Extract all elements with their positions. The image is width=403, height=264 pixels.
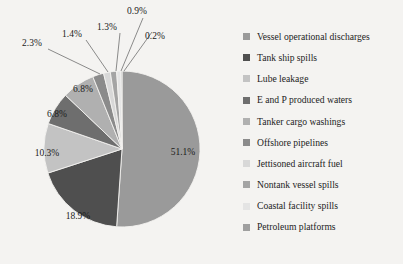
leader-line (116, 33, 120, 71)
legend-item[interactable]: Vessel operational discharges (243, 26, 401, 47)
leader-line (121, 18, 143, 71)
slice-percent-label: 6.8% (73, 84, 93, 94)
legend-item-label: Coastal facility spills (257, 201, 338, 211)
slice-percent-label: 6.8% (47, 109, 67, 119)
legend-item[interactable]: Tanker cargo washings (243, 111, 401, 132)
legend-swatch-icon (243, 54, 250, 61)
slice-percent-label: 10.3% (35, 148, 60, 158)
legend-item-label: Jettisoned aircraft fuel (257, 159, 343, 169)
slice-percent-label: 51.1% (171, 147, 196, 157)
legend-item[interactable]: E and P produced waters (243, 90, 401, 111)
chart-canvas: 51.1%18.9%10.3%6.8%6.8% 2.3%1.4%1.3%0.9%… (0, 0, 403, 264)
callout-value-labels: 2.3%1.4%1.3%0.9%0.2% (22, 6, 165, 48)
legend-item-label: Nontank vessel spills (257, 180, 339, 190)
callout-percent-label: 0.9% (127, 6, 147, 16)
legend-item-label: Offshore pipelines (257, 138, 328, 148)
legend-item[interactable]: Petroleum platforms (243, 217, 401, 238)
callout-percent-label: 1.3% (97, 22, 117, 32)
legend-swatch-icon (243, 224, 250, 231)
legend-swatch-icon (243, 160, 250, 167)
legend-item[interactable]: Jettisoned aircraft fuel (243, 153, 401, 174)
callout-percent-label: 0.2% (145, 31, 165, 41)
legend-swatch-icon (243, 203, 250, 210)
legend-item[interactable]: Offshore pipelines (243, 132, 401, 153)
legend-item[interactable]: Lube leakage (243, 68, 401, 89)
legend-item-label: Tanker cargo washings (257, 117, 345, 127)
legend-swatch-icon (243, 139, 250, 146)
legend-item-label: Petroleum platforms (257, 222, 336, 232)
legend-swatch-icon (243, 181, 250, 188)
legend-swatch-icon (243, 33, 250, 40)
chart-legend: Vessel operational dischargesTank ship s… (243, 26, 401, 238)
leader-line (48, 49, 100, 74)
legend-swatch-icon (243, 97, 250, 104)
callout-percent-label: 2.3% (22, 38, 42, 48)
legend-item-label: Lube leakage (257, 74, 308, 84)
slice-percent-label: 18.9% (66, 211, 91, 221)
legend-item[interactable]: Coastal facility spills (243, 196, 401, 217)
leader-line (86, 40, 108, 72)
callout-percent-label: 1.4% (62, 29, 82, 39)
legend-item[interactable]: Tank ship spills (243, 47, 401, 68)
legend-item-label: Vessel operational discharges (257, 32, 370, 42)
legend-item-label: Tank ship spills (257, 53, 317, 63)
legend-swatch-icon (243, 75, 250, 82)
legend-item-label: E and P produced waters (257, 95, 352, 105)
legend-swatch-icon (243, 118, 250, 125)
legend-item[interactable]: Nontank vessel spills (243, 174, 401, 195)
